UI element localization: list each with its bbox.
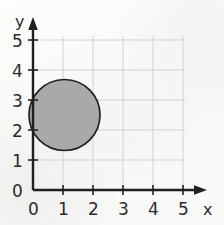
x-tick-label-5: 5 [178,201,189,218]
y-tick-label-2: 2 [12,123,23,140]
shaded-circle [29,80,100,151]
y-tick-label-3: 3 [12,93,23,110]
coordinate-plot [0,0,224,225]
x-tick-label-4: 4 [148,201,159,218]
y-tick-label-5: 5 [12,33,23,50]
axis-arrow-up-icon [28,17,38,30]
y-tick-label-4: 4 [12,63,23,80]
x-axis [33,185,207,195]
x-tick-label-2: 2 [88,201,99,218]
axis-arrow-right-icon [194,185,207,195]
x-axis-label: x [203,202,212,218]
x-tick-label-1: 1 [58,201,69,218]
y-tick-label-0: 0 [12,183,23,200]
y-axis-label: y [15,14,24,30]
x-tick-label-0: 0 [28,201,39,218]
y-tick-label-1: 1 [12,153,23,170]
figure-canvas: 5 4 3 2 1 0 0 1 2 3 4 5 y x [0,0,224,225]
x-tick-label-3: 3 [118,201,129,218]
